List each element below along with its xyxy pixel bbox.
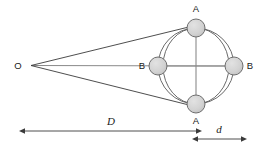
sphere-a-top	[187, 19, 205, 37]
tangent-line-upper	[31, 25, 197, 66]
tangent-line-lower	[31, 66, 197, 108]
label-sphere-b-left: B	[139, 60, 145, 71]
sphere-b-right	[225, 57, 243, 75]
label-sphere-a-top: A	[193, 3, 200, 14]
diagram-canvas: O A A B B D d	[0, 0, 267, 150]
sphere-b-left	[149, 57, 167, 75]
angular-size-diagram: O A A B B D d	[0, 0, 267, 150]
label-sphere-b-right: B	[247, 60, 253, 71]
sphere-a-bottom	[187, 95, 205, 113]
label-observer-o: O	[14, 60, 21, 71]
label-sphere-a-bottom: A	[193, 115, 200, 126]
dimension-label-d-minor: d	[216, 123, 222, 135]
dimension-label-d-major: D	[106, 115, 115, 127]
